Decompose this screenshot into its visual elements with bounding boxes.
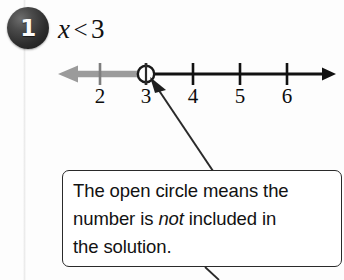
tick-label-5: 5: [225, 84, 255, 109]
tick-label-3: 3: [131, 84, 161, 109]
callout-emphasis-not: not: [158, 208, 183, 229]
callout-text: The open circle means the number is not …: [73, 177, 335, 261]
callout-box: The open circle means the number is not …: [62, 170, 342, 267]
inequality-expression: x<3: [58, 14, 105, 45]
callout-line-2-before: number is: [73, 208, 158, 229]
solution-ray-left: [58, 66, 150, 83]
tick-label-4: 4: [178, 84, 208, 109]
expression-relation-symbol: <: [70, 16, 91, 43]
expression-value: 3: [91, 14, 105, 44]
callout-line-1: The open circle means the: [73, 180, 289, 201]
step-number-badge: 1: [7, 7, 49, 49]
expression-variable: x: [58, 14, 70, 44]
callout-line-3: the solution.: [73, 236, 171, 257]
worked-example-figure: 1 x<3: [0, 0, 344, 280]
tick-label-6: 6: [272, 84, 302, 109]
tick-label-2: 2: [85, 84, 115, 109]
number-line-tick-labels: 2 3 4 5 6: [0, 84, 344, 114]
callout-line-2-after: included in: [184, 208, 276, 229]
step-number-label: 1: [20, 17, 36, 40]
